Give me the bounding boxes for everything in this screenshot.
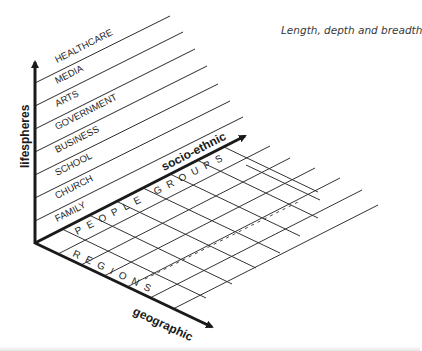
diagram-caption: Length, depth and breadth (281, 24, 422, 36)
regions-dashed-line (145, 201, 300, 279)
geographic-axis-label: geographic (131, 304, 196, 344)
lifespheres-axis-label: lifespheres (18, 104, 32, 168)
geographic-axis (35, 243, 212, 327)
lifesphere-labels: HEALTHCARE MEDIA ARTS GOVERNMENT BUSINES… (53, 26, 119, 223)
clipped-footer-text (0, 346, 420, 351)
